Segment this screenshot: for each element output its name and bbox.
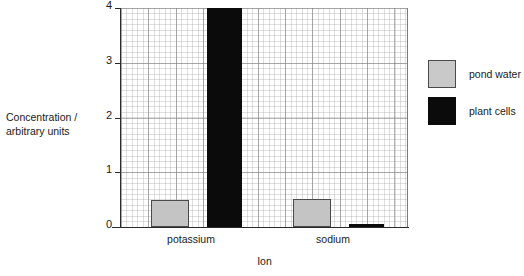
x-axis-title: Ion (121, 255, 408, 267)
y-axis-title-line-2: arbitrary units (6, 124, 102, 138)
x-axis-line (112, 227, 409, 228)
y-tick-0: 0 (100, 227, 120, 228)
legend-label-pond-water: pond water (469, 68, 521, 80)
y-tick-mark-4 (115, 8, 120, 9)
y-axis-title: Concentration / arbitrary units (6, 110, 102, 138)
bar-potassium-plant-cells (207, 8, 242, 227)
y-tick-1: 1 (100, 172, 120, 173)
y-tick-mark-1 (115, 172, 120, 173)
legend-entry-pond-water: pond water (428, 60, 521, 88)
y-tick-label-0: 0 (106, 219, 112, 230)
y-tick-mark-0 (115, 227, 120, 228)
y-tick-4: 4 (100, 8, 120, 9)
y-tick-mark-2 (115, 118, 120, 119)
y-tick-mark-3 (115, 63, 120, 64)
y-axis-line (120, 8, 121, 228)
y-axis-title-line-1: Concentration / (6, 110, 102, 124)
legend-entry-plant-cells: plant cells (428, 97, 516, 125)
bar-sodium-pond-water (293, 199, 331, 228)
plant-cells-swatch-icon (428, 97, 456, 125)
y-tick-label-3: 3 (106, 55, 112, 66)
y-tick-label-2: 2 (106, 110, 112, 121)
y-tick-3: 3 (100, 63, 120, 64)
y-tick-label-1: 1 (106, 164, 112, 175)
plot-area (121, 8, 408, 227)
pond-water-swatch-icon (428, 60, 456, 88)
y-tick-label-4: 4 (106, 0, 112, 11)
x-category-label-potassium: potassium (141, 233, 241, 245)
y-tick-2: 2 (100, 118, 120, 119)
bar-potassium-pond-water (151, 200, 189, 227)
legend-label-plant-cells: plant cells (469, 105, 516, 117)
bar-chart-figure: Concentration / arbitrary units 0 1 2 3 … (0, 0, 524, 276)
x-category-label-sodium: sodium (283, 233, 383, 245)
